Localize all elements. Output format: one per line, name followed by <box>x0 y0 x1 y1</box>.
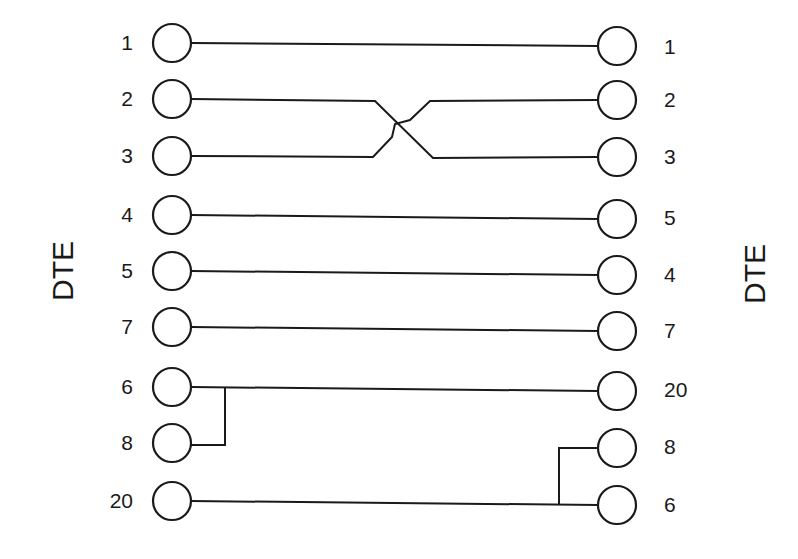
left-pin-labels: 1 2 3 4 5 7 6 8 20 <box>110 31 134 512</box>
right-pin-label: 4 <box>664 263 676 286</box>
right-pin-3 <box>598 138 636 176</box>
left-pin-20 <box>153 482 191 520</box>
left-pin-8 <box>153 424 191 462</box>
wire-5-4 <box>191 271 598 275</box>
right-pin-label: 7 <box>664 319 676 342</box>
bridge-left-6-8 <box>191 387 225 445</box>
wires <box>191 43 598 505</box>
right-pin-7 <box>598 312 636 350</box>
left-pin-label: 4 <box>121 203 133 226</box>
right-pin-labels: 1 2 3 5 4 7 20 8 6 <box>664 35 687 516</box>
left-pin-1 <box>153 24 191 62</box>
right-pin-4 <box>598 256 636 294</box>
wire-20-6 <box>191 501 598 505</box>
right-side-label: DTE <box>738 244 771 304</box>
right-pin-6 <box>598 486 636 524</box>
right-pin-8 <box>598 429 636 467</box>
right-pin-label: 2 <box>664 88 676 111</box>
right-pin-1 <box>598 27 636 65</box>
wire-3-2 <box>191 100 598 157</box>
null-modem-diagram: DTE DTE 1 2 <box>0 0 798 559</box>
left-pin-label: 6 <box>121 375 133 398</box>
wire-1-1 <box>191 43 598 46</box>
left-pin-label: 3 <box>121 144 133 167</box>
wire-7-7 <box>191 327 598 331</box>
right-pin-20 <box>598 372 636 410</box>
bridge-right-8-6 <box>559 448 598 505</box>
right-pin-label: 8 <box>664 435 676 458</box>
left-pin-label: 2 <box>121 87 133 110</box>
left-pin-label: 7 <box>121 315 133 338</box>
left-pin-6 <box>153 368 191 406</box>
left-pin-3 <box>153 137 191 175</box>
left-pin-7 <box>153 308 191 346</box>
right-pin-5 <box>598 200 636 238</box>
right-pin-label: 5 <box>664 206 676 229</box>
left-pin-label: 8 <box>121 431 133 454</box>
right-pins <box>598 27 636 524</box>
left-pin-label: 5 <box>121 259 133 282</box>
left-pin-4 <box>153 196 191 234</box>
left-pin-2 <box>153 80 191 118</box>
left-pins <box>153 24 191 520</box>
left-pin-5 <box>153 252 191 290</box>
right-pin-label: 3 <box>664 145 676 168</box>
wire-4-5 <box>191 215 598 219</box>
left-pin-label: 1 <box>121 31 133 54</box>
wire-6-20 <box>191 387 598 391</box>
right-pin-label: 6 <box>664 493 676 516</box>
right-pin-label: 1 <box>664 35 676 58</box>
right-pin-label: 20 <box>664 378 687 401</box>
left-pin-label: 20 <box>110 489 133 512</box>
left-side-label: DTE <box>46 241 79 301</box>
right-pin-2 <box>598 81 636 119</box>
